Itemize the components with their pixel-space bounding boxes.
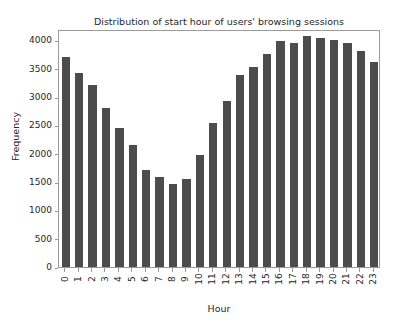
bar (142, 170, 150, 267)
y-tick-label: 4000 (29, 35, 52, 45)
x-tick-label: 4 (113, 259, 123, 299)
bar (343, 43, 351, 267)
bar (102, 108, 110, 267)
bar (357, 51, 365, 267)
y-tick-label: 2000 (29, 149, 52, 159)
bar (276, 41, 284, 267)
x-axis-label: Hour (58, 303, 380, 314)
y-tick-mark (55, 268, 59, 269)
bar (209, 123, 217, 267)
y-tick-label: 1500 (29, 177, 52, 187)
y-tick-mark (55, 183, 59, 184)
chart-title: Distribution of start hour of users' bro… (58, 16, 380, 28)
x-tick-label: 20 (328, 259, 338, 299)
bar (303, 36, 311, 267)
x-tick-label: 15 (261, 259, 271, 299)
x-tick-label: 17 (288, 259, 298, 299)
x-tick-label: 1 (73, 259, 83, 299)
x-tick-label: 19 (315, 259, 325, 299)
y-tick-mark (55, 98, 59, 99)
x-tick-label: 2 (87, 259, 97, 299)
x-tick-label: 3 (100, 259, 110, 299)
x-tick-label: 14 (248, 259, 258, 299)
y-tick-label: 2500 (29, 120, 52, 130)
x-tick-label: 10 (194, 259, 204, 299)
y-tick-label: 0 (46, 262, 52, 272)
bar (263, 54, 271, 267)
x-tick-label: 8 (167, 259, 177, 299)
bar (115, 128, 123, 267)
x-tick-label: 9 (180, 259, 190, 299)
bar (236, 75, 244, 267)
bar (330, 40, 338, 267)
y-tick-mark (55, 126, 59, 127)
chart-figure: Distribution of start hour of users' bro… (0, 0, 400, 321)
x-tick-label: 21 (341, 259, 351, 299)
x-tick-label: 0 (60, 259, 70, 299)
x-tick-label: 11 (207, 259, 217, 299)
y-tick-mark (55, 41, 59, 42)
plot-area (58, 30, 380, 268)
x-tick-label: 12 (221, 259, 231, 299)
x-tick-label: 5 (127, 259, 137, 299)
bar (88, 85, 96, 267)
bar (290, 43, 298, 267)
y-axis-label: Frequency (10, 77, 21, 197)
x-tick-label: 16 (274, 259, 284, 299)
bar (169, 184, 177, 267)
x-tick-label: 18 (301, 259, 311, 299)
bar (155, 177, 163, 267)
y-tick-label: 3000 (29, 92, 52, 102)
bar (370, 62, 378, 267)
y-tick-mark (55, 239, 59, 240)
bar (182, 179, 190, 267)
y-tick-label: 500 (35, 234, 52, 244)
bar (196, 155, 204, 267)
x-tick-label: 6 (140, 259, 150, 299)
bar (62, 57, 70, 267)
x-tick-label: 22 (355, 259, 365, 299)
y-tick-label: 1000 (29, 205, 52, 215)
x-tick-label: 7 (154, 259, 164, 299)
x-tick-label: 13 (234, 259, 244, 299)
y-tick-mark (55, 211, 59, 212)
y-tick-mark (55, 154, 59, 155)
bars-layer (59, 31, 379, 267)
bar (316, 38, 324, 267)
x-tick-label: 23 (368, 259, 378, 299)
y-tick-mark (55, 69, 59, 70)
bar (249, 67, 257, 267)
bar (223, 101, 231, 267)
bar (129, 145, 137, 267)
bar (75, 73, 83, 267)
y-tick-label: 3500 (29, 64, 52, 74)
